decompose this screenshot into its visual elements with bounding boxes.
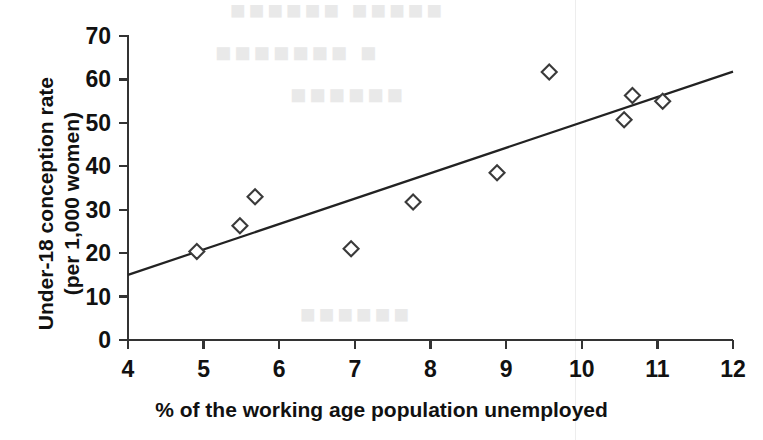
x-tick-label: 4 [122, 356, 135, 383]
x-tick-label: 10 [569, 356, 595, 383]
x-tick-label: 7 [348, 356, 361, 383]
y-axis-title-line-2: (per 1,000 women) [59, 59, 85, 349]
y-axis-title-line-1: Under-18 conception rate [33, 59, 59, 349]
data-point-marker [406, 194, 421, 209]
x-tick-label: 9 [500, 356, 513, 383]
x-tick-label: 8 [424, 356, 437, 383]
x-tick-label: 12 [720, 356, 746, 383]
data-point-marker [248, 189, 263, 204]
data-point-marker [490, 165, 505, 180]
x-axis-title: % of the working age population unemploy… [0, 398, 763, 422]
data-point-marker [625, 88, 640, 103]
data-point-marker [232, 218, 247, 233]
data-point-marker [542, 65, 557, 80]
data-point-marker [344, 241, 359, 256]
trend-line [128, 72, 733, 275]
x-tick-label: 6 [273, 356, 286, 383]
x-tick-label: 5 [197, 356, 210, 383]
scatter-chart-figure: ■■■■■■ ■■■■■ ■■■■■■■ ■ ■■■■■■ ■■■■■■ 010… [0, 0, 763, 440]
linear-trend-line [128, 72, 733, 275]
data-point-marker [189, 244, 204, 259]
data-point-marker [617, 112, 632, 127]
axes [119, 35, 733, 349]
x-tick-label: 11 [645, 356, 669, 383]
y-tick-label: 70 [0, 23, 111, 50]
y-axis-title: Under-18 conception rate (per 1,000 wome… [33, 59, 84, 349]
